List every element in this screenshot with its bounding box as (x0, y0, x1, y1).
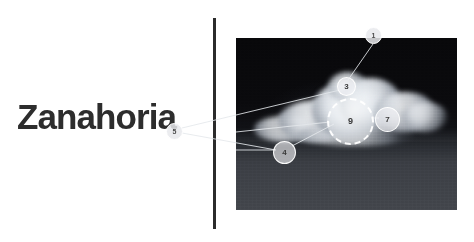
page-title: Zanahoria (17, 97, 176, 137)
marker-4[interactable]: 4 (273, 141, 296, 164)
marker-label: 1 (372, 32, 376, 39)
marker-label: 3 (344, 83, 348, 91)
marker-5[interactable]: 5 (166, 123, 183, 140)
marker-label: 7 (385, 116, 389, 124)
marker-9[interactable]: 9 (327, 98, 374, 145)
left-pane: Zanahoria (0, 0, 214, 242)
marker-1[interactable]: 1 (365, 27, 382, 44)
marker-7[interactable]: 7 (375, 107, 400, 132)
cloud-puff (402, 102, 448, 132)
marker-label: 4 (282, 149, 286, 157)
horizon-band (236, 142, 457, 210)
vertical-divider (213, 18, 216, 229)
marker-label: 9 (348, 117, 353, 126)
marker-label: 5 (173, 128, 177, 135)
marker-3[interactable]: 3 (337, 77, 356, 96)
slide-canvas: Zanahoria 139745 (0, 0, 474, 242)
